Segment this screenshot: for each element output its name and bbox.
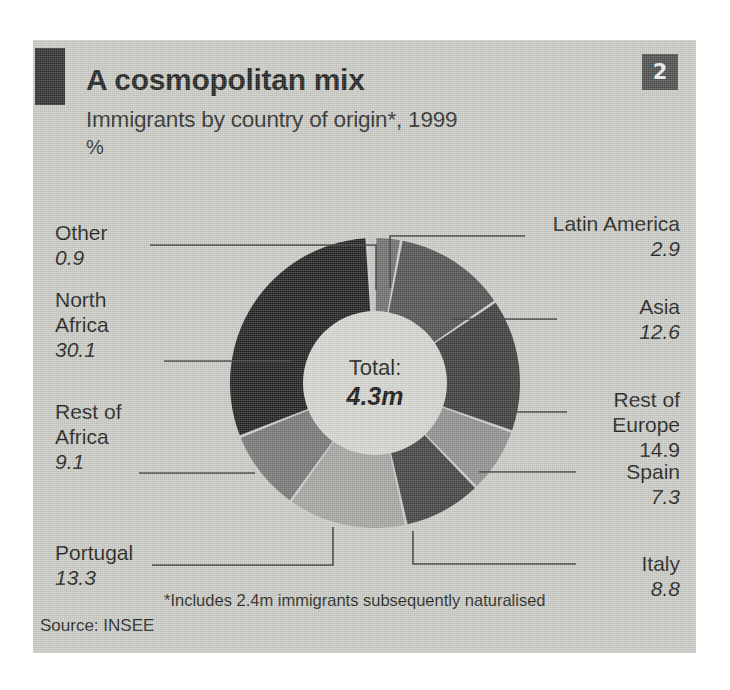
callout-latin-america: Latin America 2.9: [430, 211, 680, 261]
callout-asia-label: Asia: [460, 294, 680, 319]
callout-asia: Asia 12.6: [460, 294, 680, 344]
callout-portugal: Portugal 13.3: [55, 540, 133, 590]
callout-north-africa: North Africa 30.1: [55, 287, 109, 362]
callout-other-value: 0.9: [55, 245, 108, 270]
page-number-badge: 2: [642, 54, 678, 90]
chart-units-label: %: [86, 136, 104, 159]
chart-title: A cosmopolitan mix: [86, 63, 365, 97]
chart-card: 2 A cosmopolitan mix Immigrants by count…: [33, 40, 696, 653]
donut-center-hole: [303, 311, 447, 455]
callout-rest-of-africa-label: Rest of Africa: [55, 399, 122, 449]
callout-italy: Italy 8.8: [500, 551, 680, 601]
callout-spain: Spain 7.3: [500, 459, 680, 509]
leader-line-portugal: [152, 527, 333, 565]
callout-north-africa-value: 30.1: [55, 337, 109, 362]
chart-footnote: *Includes 2.4m immigrants subsequently n…: [164, 591, 546, 610]
callout-north-africa-label: North Africa: [55, 287, 109, 337]
callout-other: Other 0.9: [55, 220, 108, 270]
callout-portugal-value: 13.3: [55, 565, 133, 590]
chart-source: Source: INSEE: [40, 616, 154, 636]
callout-italy-label: Italy: [500, 551, 680, 576]
callout-spain-value: 7.3: [500, 484, 680, 509]
callout-italy-value: 8.8: [500, 576, 680, 601]
callout-rest-of-africa-value: 9.1: [55, 449, 122, 474]
chart-subtitle: Immigrants by country of origin*, 1999: [86, 107, 457, 133]
donut-chart: Total: 4.3m: [230, 238, 520, 528]
callout-rest-of-europe: Rest of Europe 14.9: [480, 387, 680, 462]
callout-asia-value: 12.6: [460, 319, 680, 344]
callout-rest-of-africa: Rest of Africa 9.1: [55, 399, 122, 474]
callout-spain-label: Spain: [500, 459, 680, 484]
callout-latin-america-label: Latin America: [430, 211, 680, 236]
decorative-tab-mark: [35, 48, 65, 105]
callout-other-label: Other: [55, 220, 108, 245]
callout-portugal-label: Portugal: [55, 540, 133, 565]
callout-latin-america-value: 2.9: [430, 236, 680, 261]
callout-rest-of-europe-label: Rest of Europe: [480, 387, 680, 437]
